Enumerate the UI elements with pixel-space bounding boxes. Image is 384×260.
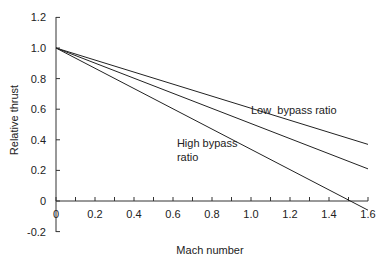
series-line <box>56 48 368 144</box>
annotation: High bypass <box>177 137 238 149</box>
series-line <box>56 48 368 210</box>
chart: 1.21.00.80.60.40.20-0.2 00.20.40.60.81.0… <box>0 0 384 260</box>
x-tick-label: 1.4 <box>321 208 336 220</box>
y-tick-label: -0.2 <box>27 226 46 238</box>
x-tick-label: 1.6 <box>360 208 375 220</box>
annotation: Low bypass ratio <box>251 104 337 116</box>
y-tick-label: 0.2 <box>31 164 46 176</box>
annotation: ratio <box>177 151 198 163</box>
series-lines <box>56 48 368 210</box>
y-tick-label: 0.8 <box>31 73 46 85</box>
x-tick-label: 0.4 <box>126 208 141 220</box>
x-tick-label: 0.6 <box>165 208 180 220</box>
x-tick-label: 0 <box>53 208 59 220</box>
x-tick-label: 0.8 <box>204 208 219 220</box>
x-axis-label: Mach number <box>176 244 244 256</box>
x-tick-label: 0.2 <box>87 208 102 220</box>
x-tick-label: 1.2 <box>282 208 297 220</box>
x-tick-label: 1.0 <box>243 208 258 220</box>
y-axis-label: Relative thrust <box>8 85 20 155</box>
y-tick-label: 0.6 <box>31 103 46 115</box>
y-tick-label: 0 <box>40 195 46 207</box>
y-tick-label: 0.4 <box>31 134 46 146</box>
y-tick-label: 1.0 <box>31 42 46 54</box>
y-tick-label: 1.2 <box>31 11 46 23</box>
